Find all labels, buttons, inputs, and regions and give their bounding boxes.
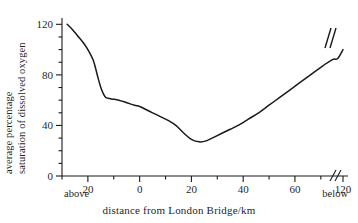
y-tick-label: 40 bbox=[42, 119, 54, 131]
y-axis-tick-labels: 04080120 bbox=[37, 18, 54, 182]
x-axis-ticks bbox=[62, 176, 343, 182]
x-axis-tick-labels: 200204060120 bbox=[82, 183, 351, 195]
y-tick-label: 120 bbox=[37, 18, 54, 30]
x-tick-label: 0 bbox=[137, 183, 143, 195]
x-tick-label: 60 bbox=[289, 183, 301, 195]
data-series-line bbox=[67, 24, 343, 142]
plot-area: 04080120 200204060120 above below bbox=[0, 0, 358, 223]
y-axis-ticks bbox=[56, 24, 62, 176]
y-tick-label: 80 bbox=[42, 69, 54, 81]
y-tick-label: 0 bbox=[48, 170, 54, 182]
x-tick-label: 40 bbox=[238, 183, 250, 195]
x-axis-left-annotation: above bbox=[64, 188, 89, 199]
x-axis-right-annotation: below bbox=[322, 188, 348, 199]
x-tick-label: 20 bbox=[186, 183, 198, 195]
curve-break-icon bbox=[325, 28, 336, 48]
x-axis-title: distance from London Bridge/km bbox=[0, 204, 358, 216]
chart-container: average percentage saturation of dissolv… bbox=[0, 0, 358, 223]
